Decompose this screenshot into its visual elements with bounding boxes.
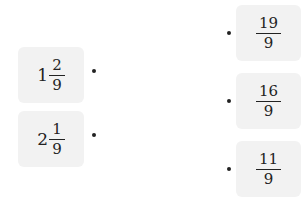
right-card-1[interactable]: 19 9 [236, 5, 301, 61]
left-connector-dot-1[interactable] [92, 69, 96, 73]
fraction: 11 9 [256, 151, 281, 188]
fraction: 1 9 [49, 121, 65, 158]
numerator: 11 [256, 151, 281, 168]
right-card-3[interactable]: 11 9 [236, 141, 301, 197]
fraction: 19 9 [256, 15, 281, 52]
denominator: 9 [261, 35, 277, 52]
denominator: 9 [49, 141, 65, 158]
left-card-2[interactable]: 2 1 9 [18, 111, 84, 167]
right-connector-dot-1[interactable] [227, 31, 231, 35]
whole-part: 2 [37, 129, 48, 149]
left-connector-dot-2[interactable] [92, 133, 96, 137]
right-connector-dot-3[interactable] [227, 167, 231, 171]
numerator: 2 [49, 57, 65, 74]
whole-part: 1 [37, 65, 48, 85]
numerator: 16 [256, 83, 281, 100]
numerator: 1 [49, 121, 65, 138]
denominator: 9 [261, 171, 277, 188]
denominator: 9 [49, 77, 65, 94]
fraction: 16 9 [256, 83, 281, 120]
fraction: 2 9 [49, 57, 65, 94]
left-card-1[interactable]: 1 2 9 [18, 47, 84, 103]
right-card-2[interactable]: 16 9 [236, 73, 301, 129]
right-connector-dot-2[interactable] [227, 99, 231, 103]
numerator: 19 [256, 15, 281, 32]
denominator: 9 [261, 103, 277, 120]
